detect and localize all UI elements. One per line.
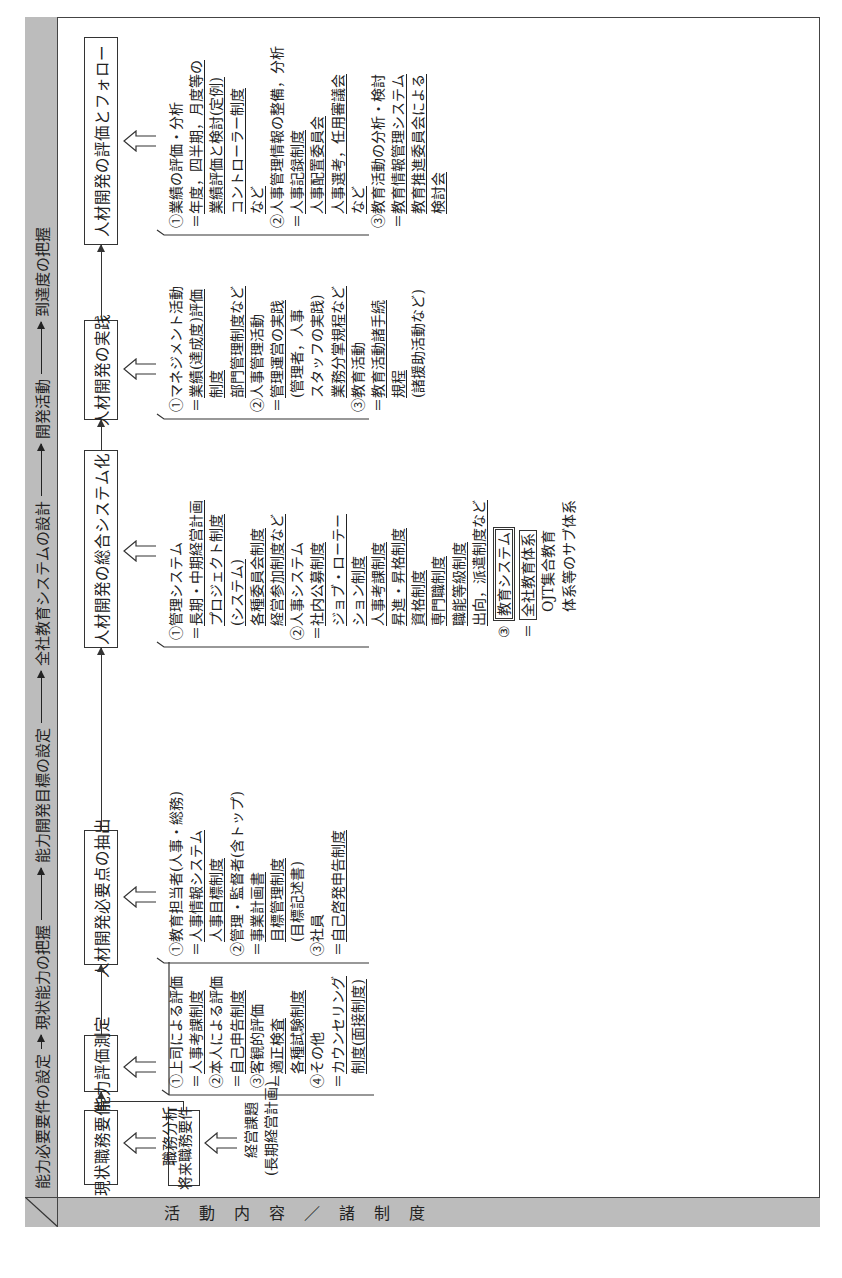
header-stage: 現状能力の把握	[31, 923, 52, 1032]
list-item: 各種委員会制度	[247, 500, 267, 640]
education-system-title: 教育システム	[493, 527, 515, 621]
list-practice: ①マネジメント活動＝業績(達成度)評価 制度 部門管理制度など②人事管理活動＝管…	[166, 286, 428, 412]
list-item: スタッフの実践)	[307, 286, 327, 412]
education-system-block: ③ 教育システム ＝ 全社教育体系 OJT集合教育 体系等のサブ体系	[494, 500, 579, 638]
list-item: 規程	[388, 286, 408, 412]
hollow-up-arrow-icon	[122, 1056, 156, 1078]
list-item: ④その他	[307, 976, 327, 1088]
box-current-job: 現状職務要件	[84, 1110, 118, 1185]
list-item: (システム)	[227, 500, 247, 640]
hollow-up-arrow-icon	[122, 540, 156, 562]
list-item: ＝人事考課制度	[186, 976, 206, 1088]
side-label-char: 容	[262, 1200, 292, 1224]
side-label-char: 諸	[332, 1200, 362, 1224]
item-number: ③	[496, 625, 512, 638]
corner-cell	[25, 1197, 58, 1227]
list-item: ②本人による評価	[206, 976, 226, 1088]
list-systemize: ①管理システム＝長期・中期経営計画 プロジェクト制度 (システム) 各種委員会制…	[166, 500, 489, 640]
list-item: 業務分掌規程など	[328, 286, 348, 412]
list-item: 経営参加制度など	[267, 500, 287, 640]
header-stage: 能力開発目標の設定	[31, 726, 52, 865]
arrow-right-icon	[101, 648, 102, 830]
list-item: 各種試験制度	[287, 976, 307, 1088]
diagonal-icon	[25, 1197, 58, 1227]
list-item: ①教育担当者(人事・総務)	[166, 791, 186, 956]
list-item: ＝教育情報管理システム	[388, 46, 408, 228]
list-item: 出向，派遣制度など	[469, 500, 489, 640]
list-item: (目標記述書)	[287, 791, 307, 956]
management-issue-label: 経営課題	[240, 1102, 260, 1158]
list-item: 人事目標制度	[206, 791, 226, 956]
list-item: 職能等級制度	[449, 500, 469, 640]
education-item: 全社教育体系	[519, 530, 537, 620]
box-systemize: 人材開発の総合システム化	[84, 450, 118, 648]
list-item: コントローラー制度	[227, 46, 247, 228]
hollow-up-arrow-icon	[122, 358, 156, 380]
list-item: 資格制度	[408, 500, 428, 640]
list-item: など	[247, 46, 267, 228]
list-item: など	[348, 46, 368, 228]
list-item: ②人事管理情報の整備，分析	[267, 46, 287, 228]
list-item: ①管理システム	[166, 500, 186, 640]
hollow-up-arrow-icon	[122, 130, 156, 152]
list-item: 制度	[206, 286, 226, 412]
list-item: 人事考課制度	[368, 500, 388, 640]
list-item: ＝適正検査	[267, 976, 287, 1088]
list-item: 制度(面接制度)	[348, 976, 368, 1088]
list-item: ①マネジメント活動	[166, 286, 186, 412]
side-label-char: ／	[297, 1200, 327, 1224]
list-item: ③教育活動	[348, 286, 368, 412]
box-label: 人材開発の実践	[90, 314, 112, 426]
list-item: ②人事システム	[287, 500, 307, 640]
list-item: ＝人事記録制度	[287, 46, 307, 228]
box-ability-eval: 能力評価測定	[84, 1035, 118, 1092]
list-ability-eval: ①上司による評価＝人事考課制度②本人による評価＝自己申告制度③客観的評価＝適正検…	[166, 976, 368, 1088]
list-item: ③社員	[307, 791, 327, 956]
list-item: ＝長期・中期経営計画	[186, 500, 206, 640]
list-item: (諸援助活動など)	[408, 286, 428, 412]
list-item: ＝社内公募制度	[307, 500, 327, 640]
header-stage: 開発活動	[31, 377, 52, 441]
list-item: 業績評価と検討(定例)	[206, 46, 226, 228]
list-item: ＝カウンセリング	[328, 976, 348, 1088]
box-practice: 人材開発の実践	[84, 320, 118, 420]
list-item: ＝事業計画書	[247, 791, 267, 956]
header-process-strip: 能力必要要件の設定現状能力の把握能力開発目標の設定全社教育システムの設計開発活動…	[25, 17, 58, 1197]
list-item: ①上司による評価	[166, 976, 186, 1088]
list-item: ＝年度，四半期，月度等の	[186, 46, 206, 228]
list-item: 専門職制度	[428, 500, 448, 640]
header-stage: 到達度の把握	[31, 225, 52, 319]
list-item: (管理者，人事	[287, 286, 307, 412]
list-item: ＝教育活動諸手続	[368, 286, 388, 412]
side-label-char: 動	[192, 1200, 222, 1224]
list-item: ＝自己申告制度	[227, 976, 247, 1088]
side-label-char: 度	[402, 1200, 432, 1224]
box-label: 現状職務要件	[90, 1100, 112, 1196]
list-item: ション制度	[348, 500, 368, 640]
arrow-right-icon	[41, 868, 42, 920]
arrow-right-icon	[101, 965, 102, 1035]
box-extract-needs: 人材開発必要点の抽出	[84, 830, 118, 965]
header-stage: 能力必要要件の設定	[31, 1052, 52, 1191]
list-extract-needs: ①教育担当者(人事・総務)＝人事情報システム 人事目標制度②管理・監督者(含トッ…	[166, 791, 348, 956]
side-label-char: 内	[227, 1200, 257, 1224]
arrow-right-icon	[41, 322, 42, 374]
box-evaluate-follow: 人材開発の評価とフォロー	[84, 37, 118, 245]
arrow-right-icon	[41, 444, 42, 496]
list-item: ＝管理運営の実践	[267, 286, 287, 412]
arrow-right-icon	[101, 245, 102, 320]
list-item: ジョブ・ローテー	[328, 500, 348, 640]
hollow-up-arrow-icon	[122, 886, 156, 908]
list-item: ③教育活動の分析・検討	[368, 46, 388, 228]
list-item: 目標管理制度	[267, 791, 287, 956]
connector-line	[183, 1101, 184, 1110]
list-item: ＝人事情報システム	[186, 791, 206, 956]
hollow-up-arrow-icon	[122, 1132, 156, 1154]
equals-sign: ＝	[520, 624, 536, 638]
hollow-up-arrow-icon	[203, 1132, 237, 1154]
list-item: 人事選考，任用審議会	[328, 46, 348, 228]
side-label-char: 制	[367, 1200, 397, 1224]
connector-line	[101, 1101, 183, 1102]
arrow-right-icon	[101, 420, 102, 450]
box-label: 人材開発の総合システム化	[90, 453, 112, 645]
